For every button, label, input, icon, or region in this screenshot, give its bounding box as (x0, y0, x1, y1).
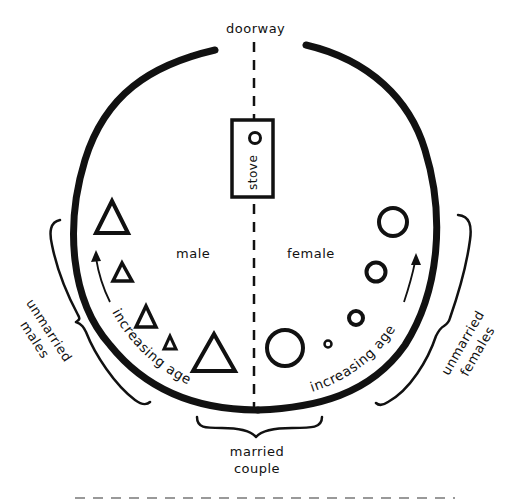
male-triangle-icon (193, 334, 235, 371)
increasing-age-label-right: increasing age (308, 321, 398, 395)
male-triangle-icon (136, 306, 156, 327)
increasing-age-arrow-right (404, 262, 415, 302)
male-area-label: male (176, 247, 210, 260)
increasing-age-arrow-left (96, 258, 110, 302)
male-triangle-icon (164, 336, 176, 349)
married-couple-label-line1: married (222, 443, 292, 460)
diagram-canvas: increasing age increasing age (0, 0, 520, 499)
female-circle-icon (325, 341, 332, 348)
female-area-label: female (287, 247, 335, 260)
unmarried-males-brace (51, 220, 150, 404)
wall-right-arc (258, 45, 437, 410)
male-triangle-icon (96, 201, 128, 233)
doorway-label: doorway (226, 22, 285, 35)
arrow-head-icon (411, 253, 421, 265)
arrow-head-icon (91, 250, 101, 262)
married-couple-label-line2: couple (222, 460, 292, 477)
female-circle-icon (267, 330, 303, 366)
married-couple-brace (197, 417, 322, 437)
stove-label: stove (247, 155, 259, 190)
married-couple-label: married couple (222, 443, 292, 477)
female-circle-icon (349, 311, 363, 325)
dwelling-seating-diagram: increasing age increasing age doorway st… (0, 0, 520, 499)
male-triangle-icon (113, 263, 132, 281)
figure-caption-cropped (75, 493, 455, 499)
female-circle-icon (367, 263, 386, 282)
female-circle-icon (379, 208, 407, 236)
